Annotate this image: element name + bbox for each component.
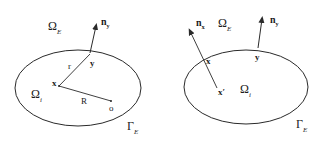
right-point-y-label: y — [255, 52, 260, 62]
left-n-y-label: ny — [101, 16, 110, 29]
left-point-x-dot — [58, 85, 60, 87]
left-origin-label: o — [109, 103, 114, 113]
left-origin-dot — [110, 100, 112, 102]
right-panel: nx ΩE ny x y x′ Ωi ΓE — [184, 14, 308, 134]
right-omega-i-label: Ωi — [240, 82, 251, 99]
left-omega-i-label: Ωi — [31, 87, 42, 104]
left-segment-r — [59, 54, 90, 86]
right-normal-x-arrow — [190, 31, 217, 88]
left-point-y-label: y — [90, 58, 95, 68]
right-omega-e-label: ΩE — [218, 16, 232, 33]
left-R-label: R — [81, 96, 87, 106]
left-point-x-label: x — [52, 78, 57, 88]
left-gamma-e-label: ΓE — [127, 119, 139, 136]
right-n-y-label: ny — [270, 14, 279, 27]
left-omega-e-label: ΩE — [48, 19, 62, 36]
right-point-x-label: x — [206, 56, 211, 66]
right-n-x-label: nx — [196, 17, 206, 30]
left-normal-y-arrow — [90, 26, 96, 53]
left-panel: ΩE ny y r x Ωi R o ΓE — [15, 16, 141, 136]
right-normal-y-arrow — [258, 19, 262, 48]
right-gamma-e-label: ΓE — [296, 117, 308, 134]
left-r-label: r — [68, 61, 71, 71]
right-point-x-prime-label: x′ — [218, 87, 225, 97]
boundary-domain-diagram: ΩE ny y r x Ωi R o ΓE nx ΩE ny x y x′ Ωi… — [0, 0, 319, 142]
